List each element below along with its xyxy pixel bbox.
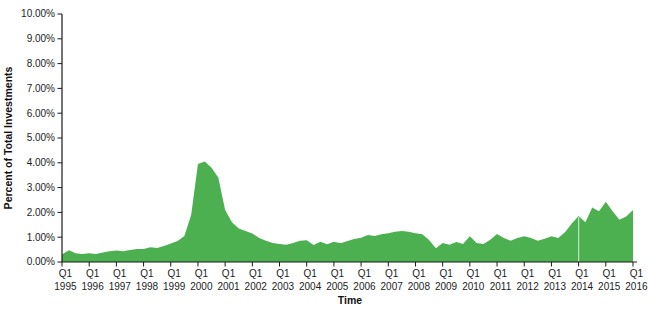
x-tick-quarter-label: Q1 <box>113 268 127 279</box>
x-axis-ticks: Q11995Q11996Q11997Q11998Q11999Q12000Q120… <box>54 262 648 292</box>
x-tick-year-label: 1996 <box>81 281 104 292</box>
y-tick-label: 9.00% <box>27 33 55 44</box>
x-axis-title: Time <box>338 294 362 306</box>
x-tick-year-label: 1999 <box>163 281 186 292</box>
x-tick-quarter-label: Q1 <box>167 268 181 279</box>
x-tick-quarter-label: Q1 <box>521 268 535 279</box>
x-tick-quarter-label: Q1 <box>412 268 426 279</box>
x-tick-year-label: 2005 <box>326 281 349 292</box>
area-series <box>62 162 633 262</box>
y-tick-label: 10.00% <box>21 8 55 19</box>
x-tick-year-label: 1995 <box>54 281 77 292</box>
y-tick-label: 7.00% <box>27 83 55 94</box>
y-axis-ticks: 0.00%1.00%2.00%3.00%4.00%5.00%6.00%7.00%… <box>21 8 62 267</box>
x-tick-quarter-label: Q1 <box>630 268 644 279</box>
x-tick-year-label: 2006 <box>353 281 376 292</box>
x-tick-quarter-label: Q1 <box>195 268 209 279</box>
y-tick-label: 6.00% <box>27 108 55 119</box>
x-tick-year-label: 2010 <box>462 281 485 292</box>
x-tick-quarter-label: Q1 <box>59 268 73 279</box>
y-tick-label: 8.00% <box>27 58 55 69</box>
x-tick-year-label: 2002 <box>245 281 268 292</box>
x-tick-year-label: 2012 <box>517 281 540 292</box>
y-tick-label: 5.00% <box>27 132 55 143</box>
x-tick-quarter-label: Q1 <box>603 268 617 279</box>
x-tick-year-label: 2000 <box>190 281 213 292</box>
area-series-group <box>62 162 633 262</box>
y-tick-label: 3.00% <box>27 182 55 193</box>
chart-svg: 0.00%1.00%2.00%3.00%4.00%5.00%6.00%7.00%… <box>0 0 648 312</box>
x-tick-year-label: 1998 <box>136 281 159 292</box>
x-tick-year-label: 2014 <box>571 281 594 292</box>
x-tick-quarter-label: Q1 <box>575 268 589 279</box>
y-axis-title: Percent of Total Investments <box>2 66 14 209</box>
x-tick-year-label: 2009 <box>435 281 458 292</box>
x-tick-year-label: 2008 <box>408 281 431 292</box>
y-tick-label: 4.00% <box>27 157 55 168</box>
x-tick-quarter-label: Q1 <box>385 268 399 279</box>
y-tick-label: 2.00% <box>27 207 55 218</box>
x-tick-quarter-label: Q1 <box>276 268 290 279</box>
x-tick-quarter-label: Q1 <box>439 268 453 279</box>
x-tick-quarter-label: Q1 <box>86 268 100 279</box>
x-tick-year-label: 2001 <box>217 281 240 292</box>
y-tick-label: 0.00% <box>27 256 55 267</box>
x-tick-quarter-label: Q1 <box>331 268 345 279</box>
x-tick-year-label: 2016 <box>625 281 648 292</box>
x-tick-quarter-label: Q1 <box>140 268 154 279</box>
x-tick-year-label: 2007 <box>381 281 404 292</box>
axes-group <box>62 14 637 262</box>
x-tick-quarter-label: Q1 <box>303 268 317 279</box>
x-tick-year-label: 2011 <box>490 281 512 292</box>
x-tick-year-label: 1997 <box>109 281 132 292</box>
x-tick-year-label: 2003 <box>272 281 295 292</box>
x-tick-quarter-label: Q1 <box>548 268 562 279</box>
x-tick-quarter-label: Q1 <box>494 268 508 279</box>
investment-area-chart: 0.00%1.00%2.00%3.00%4.00%5.00%6.00%7.00%… <box>0 0 648 312</box>
x-tick-year-label: 2015 <box>598 281 621 292</box>
x-tick-quarter-label: Q1 <box>222 268 236 279</box>
x-tick-quarter-label: Q1 <box>467 268 481 279</box>
y-tick-label: 1.00% <box>27 232 55 243</box>
x-tick-year-label: 2013 <box>544 281 567 292</box>
x-tick-year-label: 2004 <box>299 281 322 292</box>
x-tick-quarter-label: Q1 <box>358 268 372 279</box>
x-tick-quarter-label: Q1 <box>249 268 263 279</box>
